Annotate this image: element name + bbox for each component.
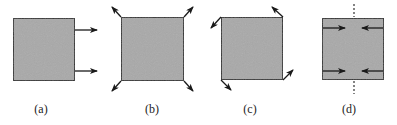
arrow-shear-icon [272, 7, 283, 17]
arrow-diagonal-icon [112, 81, 121, 91]
panel-d: (d) [322, 4, 384, 116]
square-b [121, 17, 184, 81]
panel-label-d: (d) [342, 102, 356, 116]
panel-a: (a) [13, 18, 97, 116]
square-c [221, 17, 283, 80]
panel-c: (c) [211, 7, 293, 116]
arrow-shear-icon [211, 17, 221, 28]
arrow-diagonal-icon [184, 7, 193, 17]
arrow-diagonal-icon [184, 81, 193, 91]
panel-b: (b) [112, 7, 193, 116]
arrow-shear-icon [221, 80, 231, 90]
arrow-shear-icon [283, 70, 293, 80]
panel-label-c: (c) [243, 102, 256, 116]
panel-label-b: (b) [145, 102, 159, 116]
panel-label-a: (a) [34, 102, 47, 116]
square-a [13, 18, 75, 81]
deformation-figure: (a) (b) (c) (d) [0, 0, 397, 125]
arrow-diagonal-icon [112, 7, 121, 17]
